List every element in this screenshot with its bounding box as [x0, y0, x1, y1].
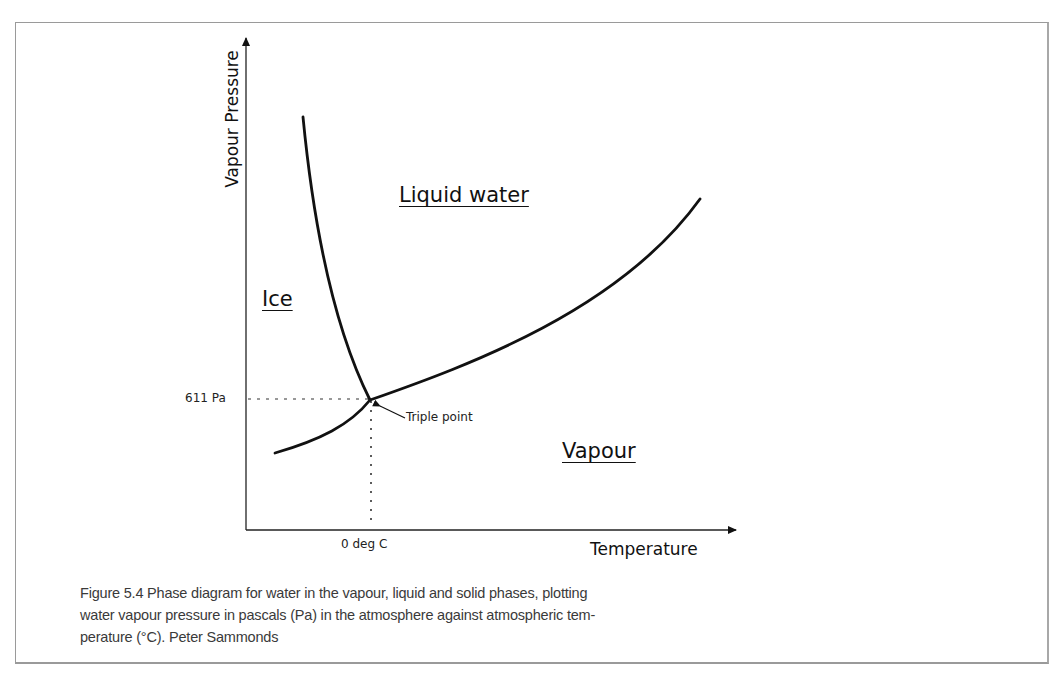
x-tick-label: 0 deg C [341, 537, 387, 551]
region-label-liquid-water: Liquid water [399, 183, 529, 207]
vaporisation-curve [370, 199, 700, 400]
y-axis-label: Vapour Pressure [221, 34, 243, 204]
caption-line: water vapour pressure in pascals (Pa) in… [80, 604, 720, 626]
region-label-vapour: Vapour [562, 439, 636, 463]
y-tick-label: 611 Pa [185, 391, 226, 405]
sublimation-curve [275, 400, 370, 453]
caption-line: perature (°C). Peter Sammonds [80, 626, 720, 648]
triple-point-label: Triple point [406, 410, 473, 424]
triple-point-arrow [380, 406, 405, 418]
figure-caption: Figure 5.4 Phase diagram for water in th… [80, 582, 720, 648]
x-axis-label: Temperature [590, 539, 698, 559]
caption-line: Figure 5.4 Phase diagram for water in th… [80, 582, 720, 604]
melting-curve [303, 117, 370, 400]
region-label-ice: Ice [262, 287, 293, 311]
